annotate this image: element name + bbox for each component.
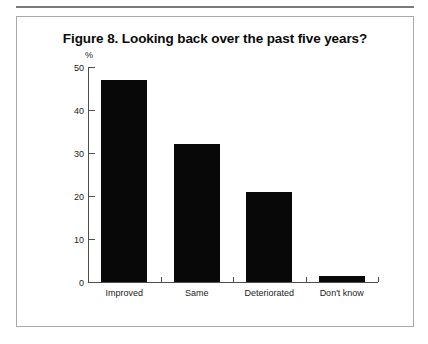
x-axis-tick — [378, 277, 379, 282]
bar-chart-plot: % 01020304050 ImprovedSameDeterioratedDo… — [17, 17, 413, 326]
y-axis-tick: 0 — [89, 282, 95, 283]
x-axis-tick — [233, 277, 234, 282]
bar — [319, 276, 365, 282]
y-axis-tick-label: 20 — [74, 192, 84, 202]
figure-frame: Figure 8. Looking back over the past fiv… — [16, 16, 414, 327]
y-axis-tick-label: 50 — [74, 63, 84, 73]
y-axis-line — [88, 67, 89, 282]
x-axis-tick — [306, 277, 307, 282]
y-axis-tick-label: 40 — [74, 106, 84, 116]
x-axis-category-label: Deteriorated — [244, 288, 294, 298]
x-axis-category-label: Same — [185, 288, 209, 298]
page-top-rule — [16, 6, 414, 8]
y-axis-tick: 30 — [89, 153, 95, 154]
y-axis-tick: 40 — [89, 110, 95, 111]
y-axis-tick-label: 30 — [74, 149, 84, 159]
x-axis-category-label: Don't know — [320, 288, 364, 298]
y-axis-tick: 10 — [89, 239, 95, 240]
bar — [101, 80, 147, 282]
y-axis-unit-label: % — [85, 50, 93, 60]
y-axis-tick-label: 0 — [79, 278, 84, 288]
x-axis-tick — [161, 277, 162, 282]
bar — [174, 144, 220, 282]
x-axis-tick — [88, 277, 89, 282]
x-axis-category-label: Improved — [105, 288, 143, 298]
y-axis-tick: 50 — [89, 67, 95, 68]
y-axis-tick: 20 — [89, 196, 95, 197]
x-axis-line — [88, 282, 378, 283]
y-axis-tick-label: 10 — [74, 235, 84, 245]
bar — [246, 192, 292, 282]
